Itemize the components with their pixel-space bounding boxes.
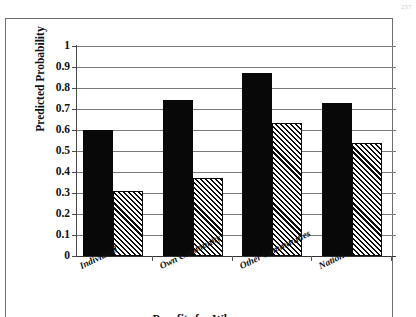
y-axis-tick [72, 214, 77, 215]
y-axis-tick [72, 88, 77, 89]
x-axis-line [77, 256, 396, 257]
y-axis-tick-labels: 10.90.80.70.60.50.40.30.20.10 [22, 46, 70, 256]
bar-diagonal-hatch-nation [352, 143, 382, 256]
bar-diagonal-hatch-individual [113, 191, 143, 256]
page-running-head: 257 [250, 0, 416, 14]
gridline [77, 88, 396, 89]
y-axis-tick-label: 0 [26, 250, 70, 262]
y-axis-tick [72, 193, 77, 194]
y-axis-tick-label: 1 [26, 40, 70, 52]
y-axis-tick-label: 0.6 [26, 124, 70, 136]
bar-solid-black-other-communities [242, 73, 272, 256]
y-axis-tick [72, 130, 77, 131]
bar-solid-black-own-community [163, 100, 193, 256]
y-axis-tick-label: 0.8 [26, 82, 70, 94]
figure-frame: Predicted Probability 10.90.80.70.60.50.… [5, 18, 393, 317]
gridline [77, 46, 396, 47]
figure-page: 257 Predicted Probability 10.90.80.70.60… [0, 0, 416, 317]
y-axis-tick [72, 151, 77, 152]
plot-area [77, 46, 396, 256]
y-axis-tick [72, 109, 77, 110]
y-axis-tick-label: 0.4 [26, 166, 70, 178]
x-axis-tick [311, 256, 312, 261]
y-axis-tick-label: 0.5 [26, 145, 70, 157]
gridline [77, 67, 396, 68]
y-axis-tick [72, 235, 77, 236]
y-axis-tick-label: 0.9 [26, 61, 70, 73]
bar-solid-black-individual [83, 130, 113, 256]
x-axis-tick [152, 256, 153, 261]
y-axis-tick [72, 256, 77, 257]
bar-solid-black-nation [322, 103, 352, 256]
y-axis-tick-label: 0.7 [26, 103, 70, 115]
y-axis-tick [72, 67, 77, 68]
y-axis-tick-label: 0.1 [26, 229, 70, 241]
y-axis-tick [72, 172, 77, 173]
x-axis-tick [232, 256, 233, 261]
x-axis-tick [391, 256, 392, 261]
y-axis-tick [72, 46, 77, 47]
y-axis-tick-label: 0.2 [26, 208, 70, 220]
y-axis-tick-label: 0.3 [26, 187, 70, 199]
x-axis-title: Benefits for Whom [6, 313, 392, 317]
